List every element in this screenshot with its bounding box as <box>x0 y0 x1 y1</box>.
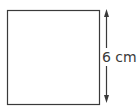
arrow-down-icon <box>104 95 109 103</box>
arrow-up-icon <box>104 9 109 17</box>
side-length-label: 6 cm <box>102 48 137 66</box>
square <box>8 11 100 105</box>
